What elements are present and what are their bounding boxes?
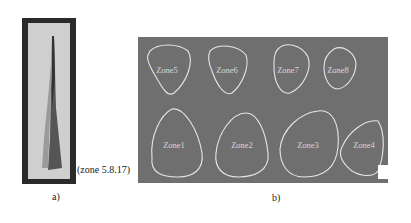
zone-label-5: Zone5 [156,65,178,75]
zone-label-8: Zone8 [327,65,349,75]
blade-illustration [22,18,76,184]
panel-a-label: a) [52,191,60,202]
zone-label-1: Zone1 [163,140,185,150]
zone-label-6: Zone6 [216,65,238,75]
zone-contours [138,37,388,183]
zone-label-7: Zone7 [277,65,299,75]
blade-photo-panel [22,18,76,184]
zone-caption: (zone 5.8.17) [77,164,130,175]
zone-sections-panel: Zone5 Zone6 Zone7 Zone8 Zone1 Zone2 Zone… [138,37,388,183]
zone-label-2: Zone2 [231,140,253,150]
zone-label-4: Zone4 [353,140,375,150]
scale-marker [378,165,390,179]
zone-label-3: Zone3 [297,140,319,150]
panel-b-label: b) [272,192,280,203]
